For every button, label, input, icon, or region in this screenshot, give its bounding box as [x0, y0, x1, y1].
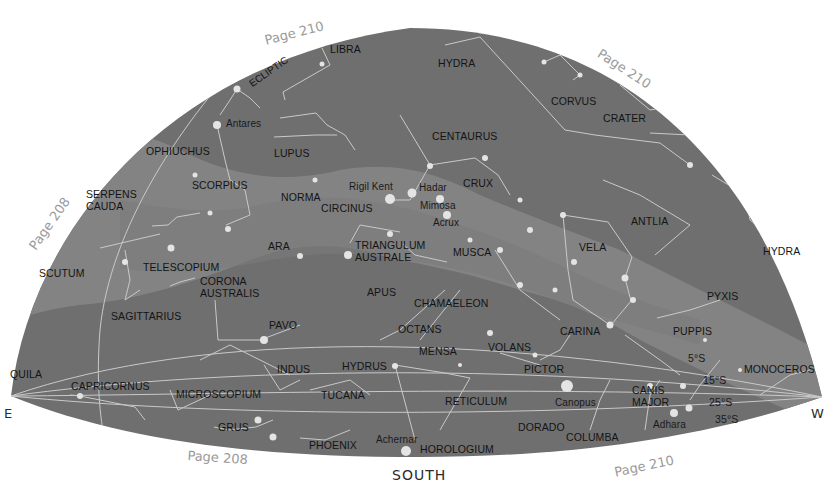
declination-15s: 15°S: [703, 375, 726, 386]
constellation-monoceros: MONOCEROS: [744, 364, 815, 375]
constellation-antlia: ANTLIA: [631, 216, 668, 227]
constellation-puppis: PUPPIS: [673, 326, 712, 337]
constellation-octans: OCTANS: [398, 324, 442, 335]
constellation-hydra-south: HYDRA: [763, 246, 800, 257]
constellation-australis: AUSTRALIS: [200, 288, 259, 299]
constellation-crater: CRATER: [603, 113, 646, 124]
constellation-norma: NORMA: [281, 192, 321, 203]
constellation-vela: VELA: [579, 242, 606, 253]
constellation-lupus: LUPUS: [274, 148, 310, 159]
constellation-cauda: CAUDA: [86, 201, 123, 212]
constellation-major: MAJOR: [632, 397, 669, 408]
star-rigil-kent: Rigil Kent: [349, 181, 393, 192]
constellation-sagittarius: SAGITTARIUS: [111, 311, 181, 322]
constellation-dorado: DORADO: [518, 422, 565, 433]
constellation-volans: VOLANS: [488, 342, 531, 353]
constellation-corvus: CORVUS: [551, 96, 596, 107]
constellation-grus: GRUS: [218, 422, 249, 433]
star-antares: Antares: [226, 118, 261, 129]
constellation-serpens: SERPENS: [86, 189, 137, 200]
constellation-telescopium: TELESCOPIUM: [143, 262, 219, 273]
constellation-crux: CRUX: [463, 178, 493, 189]
constellation-libra: LIBRA: [330, 44, 361, 55]
constellation-phoenix: PHOENIX: [309, 440, 357, 451]
constellation-tucana: TUCANA: [321, 390, 365, 401]
compass-east: E: [4, 406, 12, 421]
star-adhara: Adhara: [653, 419, 686, 430]
constellation-pavo: PAVO: [269, 320, 297, 331]
constellation-corona: CORONA: [200, 276, 247, 287]
constellation-horologium: HOROLOGIUM: [420, 444, 494, 455]
star-acrux: Acrux: [433, 217, 459, 228]
declination-35s: 35°S: [715, 414, 738, 425]
constellation-apus: APUS: [367, 287, 396, 298]
star-canopus: Canopus: [555, 397, 596, 408]
constellation-columba: COLUMBA: [566, 432, 619, 443]
constellation-musca: MUSCA: [453, 247, 491, 258]
constellation-ophiuchus: OPHIUCHUS: [146, 146, 210, 157]
constellation-reticulum: RETICULUM: [445, 396, 507, 407]
constellation-carina: CARINA: [560, 326, 600, 337]
constellation-pictor: PICTOR: [524, 364, 564, 375]
compass-west: W: [811, 406, 824, 421]
constellation-aquila: QUILA: [10, 369, 42, 380]
constellation-mensa: MENSA: [419, 346, 457, 357]
constellation-ara: ARA: [268, 241, 290, 252]
constellation-centaurus: CENTAURUS: [432, 131, 497, 142]
constellation-hydra-north: HYDRA: [438, 58, 475, 69]
star-mimosa: Mimosa: [420, 200, 456, 211]
constellation-chamaeleon: CHAMAELEON: [414, 298, 489, 309]
constellation-australe: AUSTRALE: [355, 252, 411, 263]
declination-5s: 5°S: [688, 353, 705, 364]
constellation-hydrus: HYDRUS: [342, 361, 387, 372]
constellation-microscopium: MICROSCOPIUM: [176, 389, 261, 400]
constellation-scorpius: SCORPIUS: [192, 180, 248, 191]
constellation-canis: CANIS: [632, 385, 665, 396]
constellation-indus: INDUS: [277, 364, 310, 375]
constellation-scutum: SCUTUM: [39, 268, 85, 279]
constellation-triangulum: TRIANGULUM: [355, 240, 425, 251]
declination-25s: 25°S: [709, 397, 732, 408]
constellation-pyxis: PYXIS: [707, 291, 738, 302]
star-achernar: Achernar: [376, 434, 417, 445]
constellation-circinus: CIRCINUS: [321, 203, 373, 214]
star-hadar: Hadar: [419, 182, 447, 193]
constellation-capricornus: CAPRICORNUS: [71, 381, 150, 392]
compass-south: SOUTH: [392, 467, 446, 483]
